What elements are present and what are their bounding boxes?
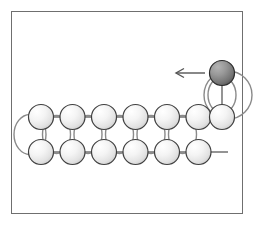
bead-top-3 xyxy=(123,105,148,130)
bead-top-4-sphere xyxy=(155,105,180,130)
bead-bottom-2 xyxy=(92,140,117,165)
bead-top-2 xyxy=(92,105,117,130)
bead-bottom-3 xyxy=(123,140,148,165)
bead-bottom-5 xyxy=(186,140,211,165)
bead-top-5-sphere xyxy=(186,105,211,130)
bead-top-1-sphere xyxy=(60,105,85,130)
bead-top-0-sphere xyxy=(29,105,54,130)
moving-bead xyxy=(210,61,235,86)
motion-arrow xyxy=(176,69,205,78)
bead-top-4 xyxy=(155,105,180,130)
bead-bottom-3-sphere xyxy=(123,140,148,165)
bead-top-6-sphere xyxy=(210,105,235,130)
bead-top-5 xyxy=(186,105,211,130)
bead-top-0 xyxy=(29,105,54,130)
bead-bottom-0-sphere xyxy=(29,140,54,165)
bead-bottom-4 xyxy=(155,140,180,165)
beads-layer xyxy=(29,61,235,165)
bead-top-2-sphere xyxy=(92,105,117,130)
bead-bottom-1 xyxy=(60,140,85,165)
bead-bottom-1-sphere xyxy=(60,140,85,165)
bead-top-6 xyxy=(210,105,235,130)
diagram-canvas xyxy=(0,0,256,228)
bead-bottom-5-sphere xyxy=(186,140,211,165)
bead-top-1 xyxy=(60,105,85,130)
bead-top-3-sphere xyxy=(123,105,148,130)
bead-bottom-4-sphere xyxy=(155,140,180,165)
bead-chain-diagram xyxy=(0,0,256,228)
bead-bottom-0 xyxy=(29,140,54,165)
bead-bottom-2-sphere xyxy=(92,140,117,165)
moving-bead-sphere xyxy=(210,61,235,86)
